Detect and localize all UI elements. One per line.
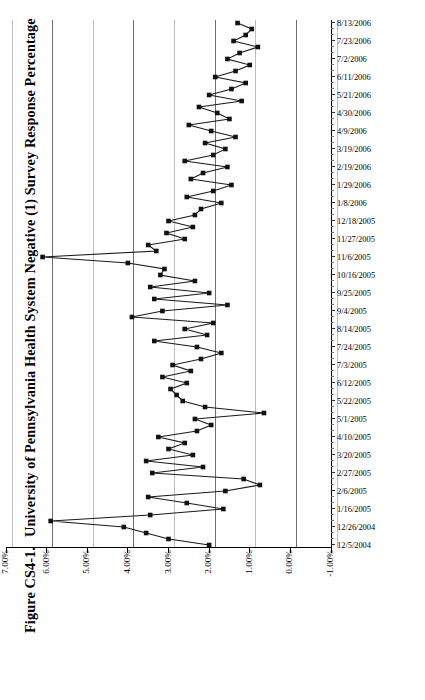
date-tick: [331, 53, 334, 54]
value-tick-label: 6.00%: [41, 550, 51, 596]
date-tick: [331, 257, 335, 258]
data-point-marker: [189, 177, 194, 182]
date-tick-label: 5/21/2006: [337, 91, 371, 100]
data-point-marker: [243, 81, 248, 86]
data-point-marker: [170, 363, 175, 368]
data-point-marker: [144, 459, 149, 464]
date-tick: [331, 401, 335, 402]
data-point-marker: [201, 171, 206, 176]
data-point-marker: [182, 327, 187, 332]
date-tick: [331, 485, 334, 486]
data-point-marker: [221, 507, 226, 512]
date-tick: [331, 365, 335, 366]
date-tick: [331, 119, 334, 120]
data-point-marker: [205, 333, 210, 338]
data-point-marker: [223, 147, 228, 152]
value-tick-label: 1.00%: [244, 550, 254, 596]
chart-plot: 7.00%6.00%5.00%4.00%3.00%2.00%1.00%0.00%…: [0, 0, 412, 600]
date-tick: [331, 101, 334, 102]
data-point-marker: [239, 99, 244, 104]
data-point-marker: [156, 435, 161, 440]
date-tick: [331, 251, 334, 252]
date-tick: [331, 461, 334, 462]
date-tick-label: 7/2/2006: [337, 55, 367, 64]
date-tick: [331, 371, 334, 372]
date-tick-label: 7/23/2006: [337, 37, 371, 46]
date-tick-label: 5/1/2005: [337, 415, 367, 424]
data-point-marker: [247, 63, 252, 68]
value-tick-label: 4.00%: [122, 550, 132, 596]
date-tick-label: 2/19/2006: [337, 163, 371, 172]
date-tick: [331, 515, 334, 516]
data-point-marker: [162, 267, 167, 272]
date-tick: [331, 347, 335, 348]
data-point-marker: [180, 399, 185, 404]
data-point-marker: [258, 483, 263, 488]
date-tick: [331, 437, 335, 438]
date-tick-label: 2/6/2005: [337, 487, 367, 496]
date-tick: [331, 407, 334, 408]
data-point-marker: [195, 345, 200, 350]
data-point-marker: [122, 525, 127, 530]
data-point-marker: [189, 369, 194, 374]
data-point-marker: [144, 531, 149, 536]
date-tick-label: 1/16/2005: [337, 505, 371, 514]
date-tick: [331, 287, 334, 288]
chart-rotated-container: 7.00%6.00%5.00%4.00%3.00%2.00%1.00%0.00%…: [0, 0, 412, 600]
date-tick: [331, 443, 334, 444]
date-tick: [331, 527, 335, 528]
date-tick: [331, 35, 334, 36]
date-tick: [331, 137, 334, 138]
data-point-marker: [126, 261, 131, 266]
date-tick: [331, 533, 334, 534]
data-point-marker: [211, 189, 216, 194]
date-tick-label: 8/13/2006: [337, 19, 371, 28]
data-point-marker: [249, 27, 254, 32]
date-tick: [331, 425, 334, 426]
date-tick: [331, 185, 335, 186]
date-tick-label: 1/8/2006: [337, 199, 367, 208]
date-tick-label: 7/3/2005: [337, 361, 367, 370]
date-tick-label: 3/19/2006: [337, 145, 371, 154]
data-point-marker: [184, 195, 189, 200]
date-tick-label: 1/29/2006: [337, 181, 371, 190]
data-point-marker: [219, 201, 224, 206]
date-tick: [331, 359, 334, 360]
date-tick: [331, 233, 334, 234]
date-tick-label: 5/22/2005: [337, 397, 371, 406]
figure-page: Figure CS4-1.University of Pennsylvania …: [0, 0, 425, 700]
date-tick-label: 4/9/2006: [337, 127, 367, 136]
data-point-marker: [225, 57, 230, 62]
date-tick: [331, 269, 334, 270]
date-tick: [331, 59, 335, 60]
date-tick: [331, 341, 334, 342]
data-point-marker: [148, 285, 153, 290]
data-point-marker: [211, 321, 216, 326]
data-point-marker: [152, 297, 157, 302]
date-tick: [331, 395, 334, 396]
date-tick: [331, 83, 334, 84]
data-point-marker: [146, 243, 151, 248]
data-point-marker: [243, 33, 248, 38]
date-tick: [331, 305, 334, 306]
date-tick: [331, 239, 335, 240]
date-tick: [331, 383, 335, 384]
data-point-marker: [150, 471, 155, 476]
date-tick: [331, 449, 334, 450]
data-point-marker: [148, 513, 153, 518]
date-tick: [331, 209, 334, 210]
date-tick-label: 11/27/2005: [337, 235, 375, 244]
data-point-marker: [231, 39, 236, 44]
date-tick: [331, 179, 334, 180]
data-point-marker: [160, 309, 165, 314]
date-tick-label: 12/26/2004: [337, 523, 375, 532]
data-point-marker: [40, 255, 45, 260]
date-tick-label: 9/4/2005: [337, 307, 367, 316]
data-point-marker: [164, 231, 169, 236]
date-tick: [331, 455, 335, 456]
data-point-marker: [235, 21, 240, 26]
data-point-marker: [225, 165, 230, 170]
date-tick: [331, 281, 334, 282]
value-tick-label: 2.00%: [203, 550, 213, 596]
data-point-marker: [201, 465, 206, 470]
